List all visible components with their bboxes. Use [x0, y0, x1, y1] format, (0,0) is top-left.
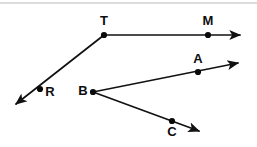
ray-B-through-A [93, 63, 238, 92]
geometry-canvas: T M R B A C [0, 0, 257, 147]
point-label-A: A [193, 51, 203, 66]
point-R-dot [37, 86, 43, 92]
point-C-dot [169, 118, 175, 124]
point-B-dot [90, 89, 96, 95]
point-label-B: B [78, 83, 87, 98]
geometry-diagram: T M R B A C [0, 0, 257, 147]
point-label-M: M [203, 13, 214, 28]
points-group [37, 32, 211, 124]
point-label-T: T [100, 13, 108, 28]
labels-group: T M R B A C [45, 13, 213, 139]
point-label-C: C [167, 124, 177, 139]
point-A-dot [195, 69, 201, 75]
point-label-R: R [45, 84, 55, 99]
ray-B-through-C [93, 92, 199, 131]
point-M-dot [205, 32, 211, 38]
point-T-dot [101, 32, 107, 38]
rays-group [16, 35, 240, 131]
